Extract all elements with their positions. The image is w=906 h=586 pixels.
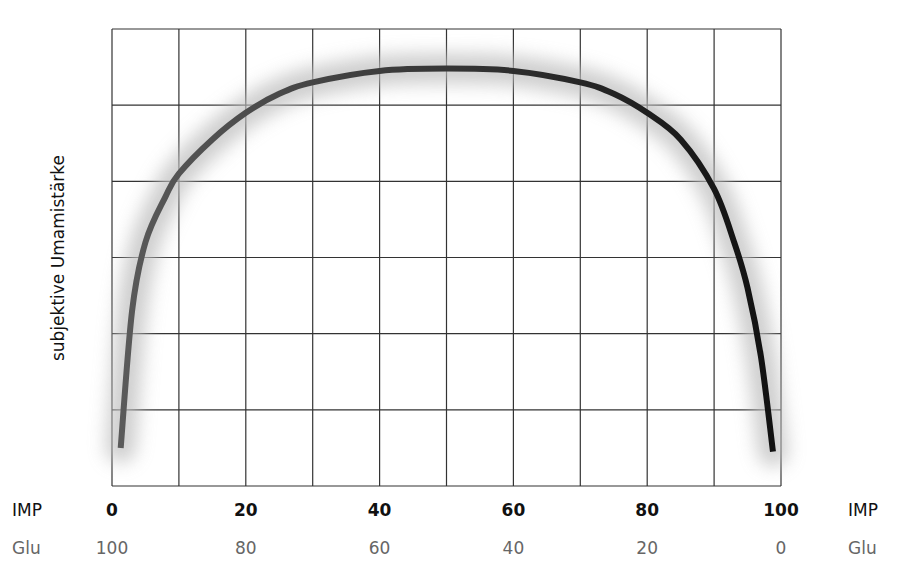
imp-tick-label: 40 bbox=[368, 500, 392, 520]
y-axis-label: subjektive Umamistärke bbox=[48, 155, 68, 361]
imp-tick-label: 100 bbox=[763, 500, 799, 520]
glu-tick-label: 0 bbox=[776, 538, 787, 558]
imp-tick-label: 20 bbox=[234, 500, 258, 520]
imp-tick-label: 0 bbox=[106, 500, 118, 520]
chart-plot bbox=[0, 0, 906, 586]
imp-tick-label: 80 bbox=[635, 500, 659, 520]
glu-tick-label: 100 bbox=[96, 538, 128, 558]
x-axis-label-imp-right: IMP bbox=[848, 500, 878, 520]
glu-tick-label: 20 bbox=[636, 538, 658, 558]
glu-tick-label: 80 bbox=[235, 538, 257, 558]
imp-tick-label: 60 bbox=[502, 500, 526, 520]
glu-tick-label: 60 bbox=[369, 538, 391, 558]
x-axis-label-glu-left: Glu bbox=[12, 538, 41, 558]
x-axis-label-imp-left: IMP bbox=[12, 500, 42, 520]
x-axis-label-glu-right: Glu bbox=[848, 538, 877, 558]
glu-tick-label: 40 bbox=[503, 538, 525, 558]
grid-lines bbox=[112, 29, 781, 486]
